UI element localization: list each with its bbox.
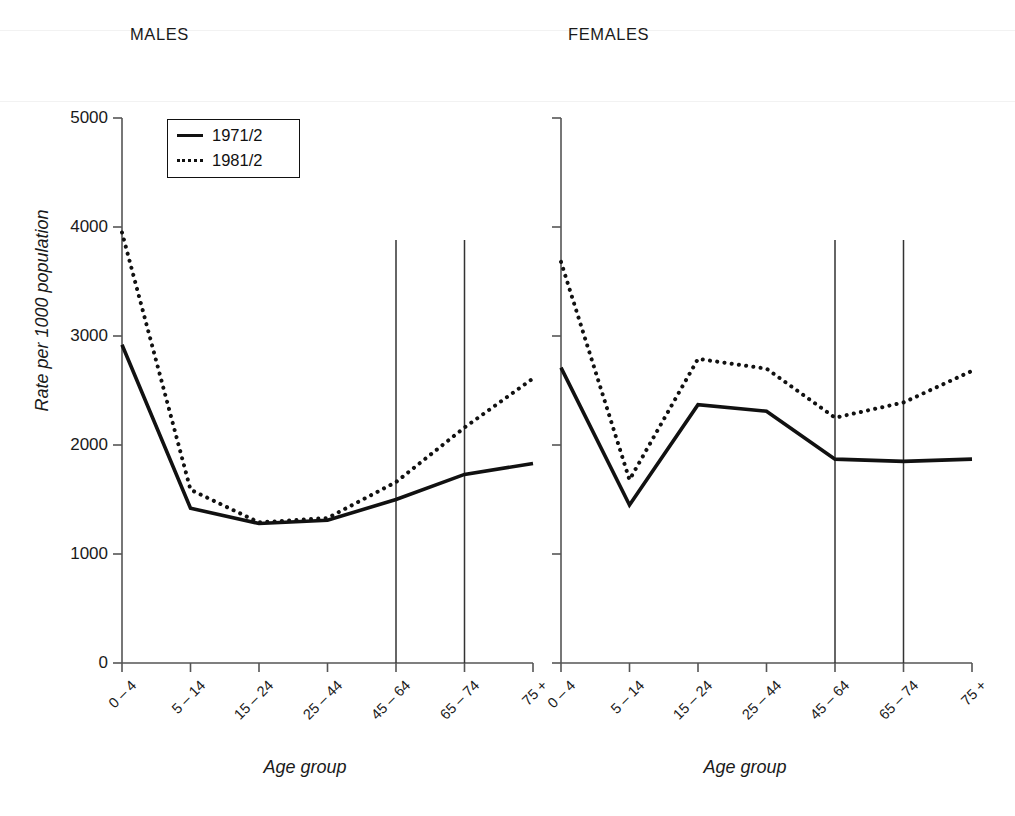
series-line-1981-2	[122, 232, 533, 522]
y-tick-label: 2000	[0, 435, 108, 455]
legend-label-1971: 1971/2	[212, 126, 262, 145]
y-tick-label: 0	[0, 653, 108, 673]
series-line-1971-2	[122, 345, 533, 524]
plot-area	[0, 0, 1015, 816]
y-tick-label: 5000	[0, 108, 108, 128]
chart-figure: MALES FEMALES Rate per 1000 population A…	[0, 0, 1015, 816]
legend: 1971/2 1981/2	[167, 119, 300, 178]
legend-line-solid-icon	[177, 134, 203, 137]
legend-line-dotted-icon	[177, 159, 203, 162]
y-tick-label: 1000	[0, 544, 108, 564]
series-line-1971-2	[561, 368, 972, 505]
y-tick-label: 3000	[0, 326, 108, 346]
legend-item-1971: 1971/2	[177, 123, 262, 147]
series-line-1981-2	[561, 262, 972, 480]
legend-item-1981: 1981/2	[177, 148, 262, 172]
legend-label-1981: 1981/2	[212, 151, 262, 170]
y-tick-label: 4000	[0, 217, 108, 237]
